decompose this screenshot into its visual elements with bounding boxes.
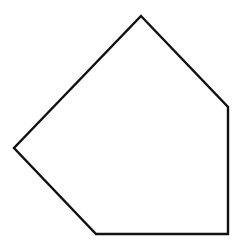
pentagon-shape [14, 16, 228, 234]
pentagon-diagram [0, 0, 244, 248]
diagram-canvas [0, 0, 244, 248]
